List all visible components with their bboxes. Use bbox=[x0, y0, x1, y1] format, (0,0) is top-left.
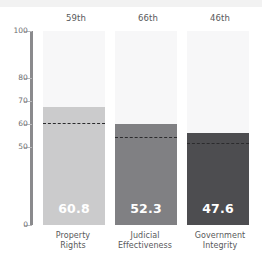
y-tick-label-80: 80 bbox=[4, 74, 28, 82]
y-tick-label-60: 60 bbox=[4, 120, 28, 128]
header-strip bbox=[0, 0, 262, 7]
column-government-integrity: 47.6 bbox=[187, 31, 249, 225]
bar-value-government-integrity: 47.6 bbox=[187, 201, 249, 216]
bar-value-property-rights: 60.8 bbox=[43, 201, 105, 216]
plot-area: 60.8 52.3 47.6 bbox=[33, 31, 262, 225]
y-tick-label-100: 100 bbox=[4, 27, 28, 35]
y-tick-label-70: 70 bbox=[4, 97, 28, 105]
bar-government-integrity[interactable]: 47.6 bbox=[187, 133, 249, 225]
y-tick-label-50: 50 bbox=[4, 143, 28, 151]
bar-judicial-effectiveness[interactable]: 52.3 bbox=[115, 124, 177, 225]
category-label-line-2: Rights bbox=[37, 241, 109, 251]
column-judicial-effectiveness: 52.3 bbox=[115, 31, 177, 225]
reference-line-property-rights bbox=[43, 123, 105, 124]
bar-value-judicial-effectiveness: 52.3 bbox=[115, 201, 177, 216]
y-tick-label-0: 0 bbox=[4, 221, 28, 229]
category-label-government-integrity: Government Integrity bbox=[180, 231, 260, 250]
rank-label-property-rights: 59th bbox=[40, 13, 112, 23]
category-label-line-2: Integrity bbox=[180, 241, 260, 251]
category-label-judicial-effectiveness: Judicial Effectiveness bbox=[108, 231, 182, 250]
bar-property-rights[interactable]: 60.8 bbox=[43, 107, 105, 225]
category-label-line-2: Effectiveness bbox=[108, 241, 182, 251]
category-label-property-rights: Property Rights bbox=[37, 231, 109, 250]
category-label-line-1: Property bbox=[37, 231, 109, 241]
column-property-rights: 60.8 bbox=[43, 31, 105, 225]
category-label-line-1: Judicial bbox=[108, 231, 182, 241]
category-label-line-1: Government bbox=[180, 231, 260, 241]
bar-chart: 100 80 70 60 50 0 59th 66th 46th 60.8 52… bbox=[0, 0, 262, 260]
reference-line-government-integrity bbox=[187, 143, 249, 144]
rank-label-judicial-effectiveness: 66th bbox=[112, 13, 184, 23]
rank-label-government-integrity: 46th bbox=[184, 13, 256, 23]
reference-line-judicial-effectiveness bbox=[115, 137, 177, 138]
